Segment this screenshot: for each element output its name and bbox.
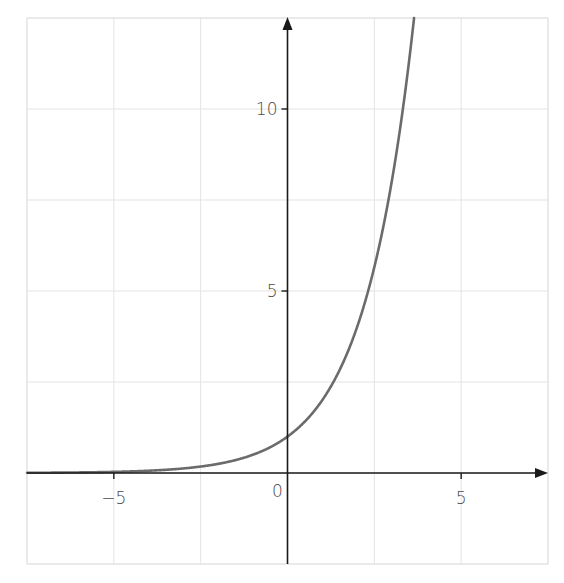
y-tick-label: 5 bbox=[267, 281, 278, 301]
y-axis-arrow-icon bbox=[283, 17, 293, 30]
tick-labels: −5 5 5 10 0 bbox=[101, 99, 466, 508]
exponential-curve bbox=[27, 18, 414, 473]
x-tick-label: 5 bbox=[456, 488, 467, 508]
y-tick-label: 10 bbox=[256, 99, 278, 119]
origin-label: 0 bbox=[272, 481, 283, 501]
x-tick-label: −5 bbox=[101, 488, 126, 508]
function-plot: −5 5 5 10 0 bbox=[0, 0, 564, 583]
x-axis-arrow-icon bbox=[535, 468, 548, 478]
